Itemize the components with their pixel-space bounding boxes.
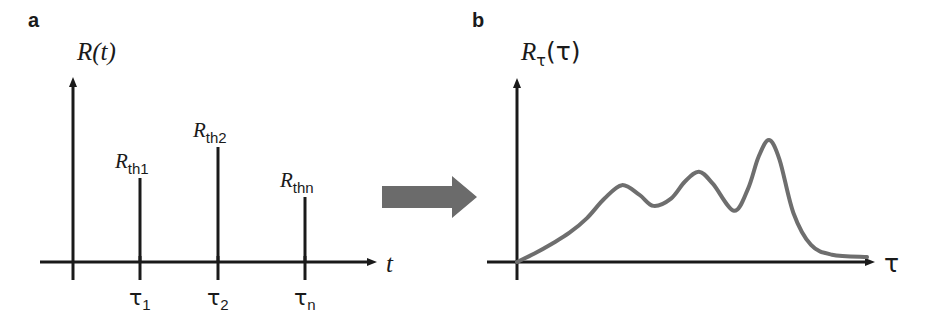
- impulse-2-label-base: R: [192, 118, 206, 142]
- impulse-2-label-sub: th2: [206, 129, 227, 146]
- panel-a-label: a: [28, 9, 40, 31]
- impulse-2-tick-label: τ2: [207, 285, 229, 313]
- impulse-2: Rth2 τ2: [192, 118, 229, 313]
- impulse-1-label: Rth1: [114, 149, 149, 177]
- panel-b-label: b: [472, 9, 484, 31]
- panel-a-y-axis-label: R(t): [76, 38, 116, 66]
- impulse-n-label-base: R: [279, 168, 293, 192]
- panel-a: a R(t) t Rth1 τ1 Rth2 τ2 Rthn τn: [28, 9, 394, 313]
- panel-b-y-axis-label-sub: τ: [536, 51, 546, 70]
- impulse-n-label: Rthn: [279, 168, 314, 196]
- impulse-1-tick-label-base: τ: [129, 285, 142, 310]
- panel-b-y-axis-label: Rτ(τ): [520, 37, 580, 70]
- panel-a-y-axis-label-arg: (t): [92, 38, 116, 66]
- impulse-2-tick-label-sub: 2: [220, 296, 228, 313]
- panel-b-x-axis-label: τ: [884, 249, 899, 278]
- impulse-2-label: Rth2: [192, 118, 227, 146]
- impulse-n: Rthn τn: [279, 168, 316, 313]
- impulse-1-label-sub: th1: [128, 160, 149, 177]
- panel-a-x-axis-label: t: [386, 250, 394, 277]
- impulse-1-label-base: R: [114, 149, 128, 173]
- impulse-1-tick-label-sub: 1: [142, 296, 150, 313]
- impulse-1-tick-label: τ1: [129, 285, 151, 313]
- impulse-n-tick-label: τn: [294, 285, 316, 313]
- impulse-n-tick-label-base: τ: [294, 285, 307, 310]
- rightward-block-arrow-icon: [382, 176, 477, 218]
- impulse-1: Rth1 τ1: [114, 149, 151, 313]
- panel-a-y-axis-label-base: R: [76, 38, 92, 65]
- transform-arrow: [382, 176, 477, 218]
- spectrum-curve: [517, 140, 867, 262]
- panel-b-y-axis-label-arg: (τ): [546, 37, 581, 66]
- panel-b: b Rτ(τ) τ: [472, 9, 899, 280]
- impulse-n-label-sub: thn: [293, 179, 314, 196]
- impulse-n-tick-label-sub: n: [307, 296, 315, 313]
- figure-canvas: a R(t) t Rth1 τ1 Rth2 τ2 Rthn τn: [0, 0, 931, 315]
- panel-b-y-axis-label-base: R: [520, 38, 536, 65]
- impulse-2-tick-label-base: τ: [207, 285, 220, 310]
